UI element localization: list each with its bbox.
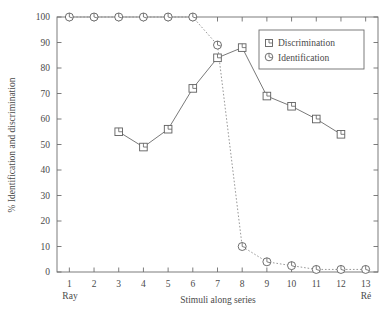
legend-label-identification: Identification [278, 53, 329, 63]
y-tick-label: 100 [36, 12, 51, 22]
x-tick-label: 5 [166, 279, 171, 289]
x-tick-label: 10 [287, 279, 297, 289]
x-axis-title: Stimuli along series [180, 295, 256, 305]
x-tick-label: 12 [336, 279, 346, 289]
y-tick-label: 30 [41, 191, 51, 201]
legend: Discrimination Identification [259, 30, 364, 69]
y-axis-tick-labels: 0102030405060708090100 [36, 12, 51, 277]
x-tick-label: 2 [92, 279, 97, 289]
y-tick-label: 90 [41, 38, 51, 48]
x-tick-label: 3 [116, 279, 121, 289]
y-axis-title: % Identification and discrimination [7, 77, 17, 212]
x-tick-label: 11 [312, 279, 321, 289]
y-tick-label: 50 [41, 140, 51, 150]
x-tick-label: 6 [190, 279, 195, 289]
x-tick-label: 7 [215, 279, 220, 289]
x-tick-label: 13 [361, 279, 371, 289]
y-tick-label: 40 [41, 165, 51, 175]
x-axis-right-endpoint-label: Ré [361, 291, 372, 301]
x-tick-label: 8 [240, 279, 245, 289]
legend-label-discrimination: Discrimination [278, 38, 335, 48]
y-tick-label: 0 [45, 267, 50, 277]
y-tick-label: 20 [41, 216, 51, 226]
x-tick-label: 4 [141, 279, 146, 289]
x-tick-label: 1 [67, 279, 72, 289]
x-axis-tick-labels: 12345678910111213 [67, 279, 371, 289]
x-tick-label: 9 [265, 279, 270, 289]
x-axis-left-endpoint-label: Ray [62, 291, 78, 301]
y-tick-label: 60 [41, 114, 51, 124]
chart-canvas: 0102030405060708090100 12345678910111213… [0, 0, 390, 320]
y-tick-label: 10 [41, 242, 51, 252]
chart-figure: 0102030405060708090100 12345678910111213… [0, 0, 390, 320]
y-tick-label: 80 [41, 63, 51, 73]
y-tick-label: 70 [41, 89, 51, 99]
